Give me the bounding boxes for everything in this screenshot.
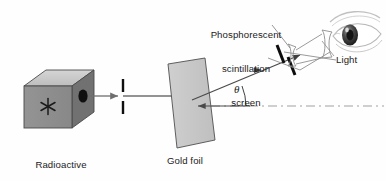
radioactive-source-label: Radioactive source (alpha particles) [6, 136, 116, 181]
light-label: Light [336, 54, 376, 65]
theta-angle-label: θ [234, 83, 239, 95]
screen-label-line-3: screen [186, 97, 306, 108]
gold-foil-label: Gold foil [148, 155, 222, 166]
radioactive-source-box [24, 70, 94, 128]
figure-canvas: Radioactive source (alpha particles) Gol… [0, 0, 386, 181]
aperture-hole [78, 89, 87, 102]
observer-eye [330, 12, 382, 52]
screen-label-line-1: Phosphorescent [186, 29, 306, 40]
scintillation-screen-label: Phosphorescent scintillation screen [186, 6, 306, 131]
screen-label-line-2: scintillation [186, 63, 306, 74]
source-label-line-1: Radioactive [6, 159, 116, 170]
